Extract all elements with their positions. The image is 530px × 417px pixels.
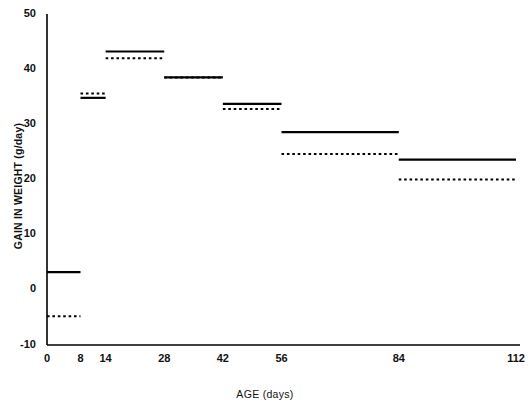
series-group — [47, 52, 516, 317]
x-tick-label: 28 — [149, 352, 179, 364]
chart-container: -1001020304050 081428425684112 GAIN IN W… — [0, 0, 530, 417]
x-tick-label: 0 — [32, 352, 62, 364]
y-tick-label: -10 — [2, 338, 36, 350]
x-axis-title: AGE (days) — [0, 388, 530, 400]
x-tick-label: 42 — [208, 352, 238, 364]
x-tick-label: 56 — [267, 352, 297, 364]
y-tick-label: 40 — [2, 62, 36, 74]
y-axis-title: GAIN IN WEIGHT (g/day) — [12, 96, 28, 276]
x-tick-label: 14 — [91, 352, 121, 364]
y-tick-label: 50 — [2, 7, 36, 19]
x-tick-label: 112 — [501, 352, 530, 364]
x-tick-label: 84 — [384, 352, 414, 364]
y-tick-label: 0 — [2, 282, 36, 294]
